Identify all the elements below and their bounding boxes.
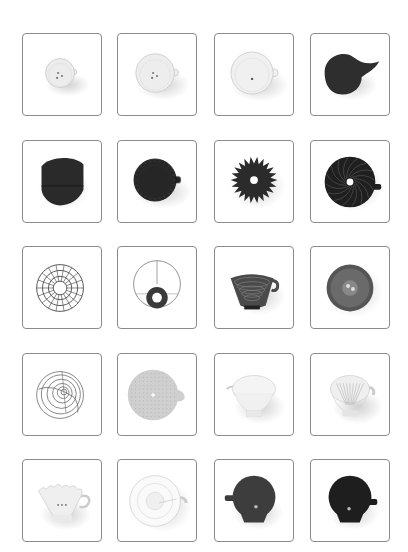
product-card-mesh-dripper-top[interactable] [117, 353, 197, 436]
product-card-dark-gray-dripper[interactable] [214, 459, 294, 542]
product-card-white-ceramic-dripper-small[interactable] [22, 33, 102, 116]
product-card-white-wave-dripper[interactable] [22, 459, 102, 542]
product-card-black-dripper-ribbed-top[interactable] [117, 140, 197, 223]
product-card-black-dripper-folded[interactable] [22, 140, 102, 223]
product-card-white-ceramic-dripper-top[interactable] [117, 33, 197, 116]
product-card-metal-dripper-ridged[interactable] [214, 246, 294, 329]
product-card-glass-dripper-ribbed[interactable] [310, 353, 390, 436]
product-card-black-dripper-handle-right[interactable] [310, 459, 390, 542]
product-card-black-dripper-side[interactable] [310, 33, 390, 116]
product-card-wire-cone-dripper[interactable] [117, 246, 197, 329]
product-card-wire-spiral-dripper[interactable] [22, 353, 102, 436]
dripper-product-grid [0, 0, 408, 552]
product-card-black-spiral-dripper[interactable] [310, 140, 390, 223]
product-card-wire-basket-dripper[interactable] [22, 246, 102, 329]
product-card-metal-dripper-top[interactable] [310, 246, 390, 329]
product-card-glass-dripper-side[interactable] [214, 353, 294, 436]
product-card-black-flower-dripper[interactable] [214, 140, 294, 223]
product-card-white-ceramic-dripper-large[interactable] [214, 33, 294, 116]
product-card-clear-plastic-dripper-top[interactable] [117, 459, 197, 542]
